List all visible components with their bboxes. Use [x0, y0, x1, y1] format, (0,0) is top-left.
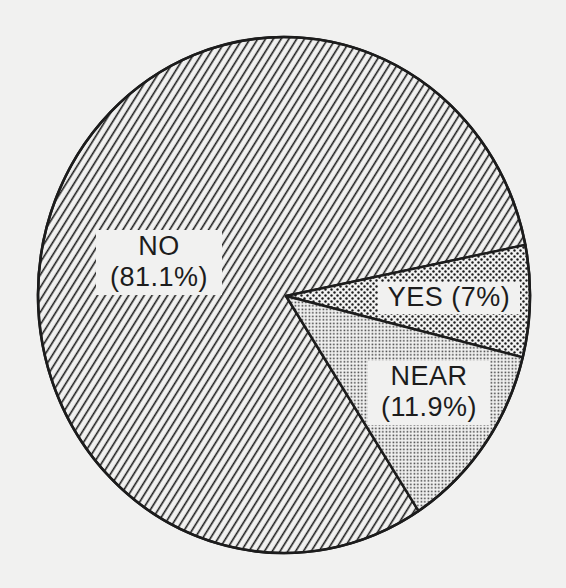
label-yes: YES (7%): [378, 282, 520, 314]
label-near-percent: (11.9%): [368, 392, 490, 423]
label-no-name: NO: [96, 231, 222, 262]
label-near-name: NEAR: [368, 361, 490, 392]
label-near: NEAR (11.9%): [368, 361, 490, 425]
label-yes-text: YES (7%): [378, 282, 520, 313]
label-no: NO (81.1%): [96, 230, 222, 295]
label-no-percent: (81.1%): [96, 262, 222, 293]
